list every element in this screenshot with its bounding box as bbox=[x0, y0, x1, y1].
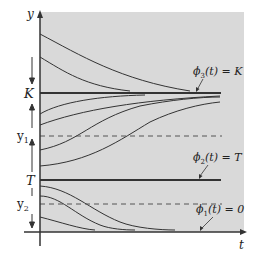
arrow-up-icon bbox=[30, 104, 35, 110]
arrow-up-icon bbox=[30, 139, 35, 145]
K-label: K bbox=[23, 86, 35, 101]
y-axis-label: y bbox=[26, 7, 34, 21]
y2-label: y2 bbox=[16, 197, 29, 213]
arrow-down-icon bbox=[30, 78, 35, 84]
phase-diagram: y t K T y1 y2 ϕ3(t) = K ϕ2(t) = T ϕ1(t) … bbox=[0, 0, 262, 262]
T-label: T bbox=[26, 173, 36, 188]
t-axis-label: t bbox=[239, 238, 244, 252]
y1-label: y1 bbox=[16, 129, 29, 145]
arrow-down-icon bbox=[30, 222, 35, 228]
phase-line-arrows bbox=[30, 57, 35, 228]
svg-text:ϕ1(t) = 0: ϕ1(t) = 0 bbox=[196, 203, 244, 218]
plot-panel bbox=[40, 12, 244, 232]
